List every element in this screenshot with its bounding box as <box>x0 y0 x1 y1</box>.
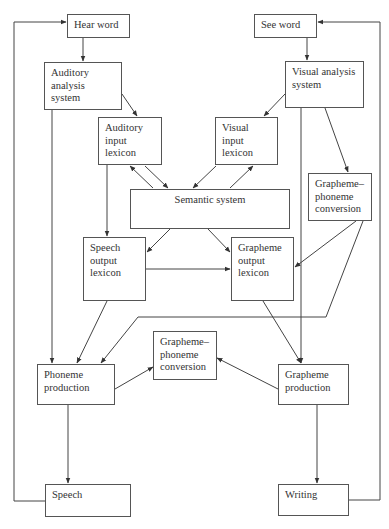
writing-node: Writing <box>278 484 349 516</box>
node-label: lexicon <box>238 267 287 280</box>
node-label: lexicon <box>90 267 139 280</box>
hear-word-node: Hear word <box>67 14 130 38</box>
phoneme-production-node: Phoneme production <box>37 364 115 405</box>
node-label: phoneme <box>315 191 365 204</box>
grapheme-production-node: Grapheme production <box>278 364 349 405</box>
node-label: output <box>90 255 139 268</box>
node-label: Grapheme– <box>160 336 210 349</box>
node-label: Semantic system <box>137 194 283 207</box>
visual-analysis-system-node: Visual analysis system <box>285 61 364 108</box>
node-label: system <box>51 92 115 105</box>
auditory-input-lexicon-node: Auditory input lexicon <box>98 117 162 165</box>
node-label: analysis <box>51 80 115 93</box>
node-label: lexicon <box>105 147 155 160</box>
node-label: Speech <box>52 489 124 502</box>
speech-node: Speech <box>45 484 131 517</box>
grapheme-phoneme-conversion-right-node: Grapheme– phoneme conversion <box>308 173 372 221</box>
node-label: Writing <box>285 489 342 502</box>
node-label: production <box>44 382 108 395</box>
node-label: Grapheme– <box>315 178 365 191</box>
node-label: phoneme <box>160 349 210 362</box>
node-label: input <box>105 135 155 148</box>
visual-input-lexicon-node: Visual input lexicon <box>215 117 278 165</box>
node-label: Visual analysis <box>292 66 357 79</box>
auditory-analysis-system-node: Auditory analysis system <box>44 62 122 110</box>
node-label: Visual <box>222 122 271 135</box>
node-label: See word <box>261 19 310 32</box>
semantic-system-node: Semantic system <box>130 189 290 229</box>
speech-output-lexicon-node: Speech output lexicon <box>83 237 146 301</box>
node-label: conversion <box>315 203 365 216</box>
node-label: Hear word <box>74 19 123 32</box>
node-label: Phoneme <box>44 369 108 382</box>
grapheme-phoneme-conversion-middle-node: Grapheme– phoneme conversion <box>153 331 217 380</box>
node-label: lexicon <box>222 147 271 160</box>
node-label: input <box>222 135 271 148</box>
node-label: system <box>292 79 357 92</box>
node-label: Auditory <box>51 67 115 80</box>
node-label: conversion <box>160 361 210 374</box>
node-label: Grapheme <box>285 369 342 382</box>
see-word-node: See word <box>254 14 317 38</box>
node-label: Grapheme <box>238 242 287 255</box>
node-label: Speech <box>90 242 139 255</box>
node-label: production <box>285 382 342 395</box>
grapheme-output-lexicon-node: Grapheme output lexicon <box>231 237 294 301</box>
node-label: output <box>238 255 287 268</box>
node-label: Auditory <box>105 122 155 135</box>
